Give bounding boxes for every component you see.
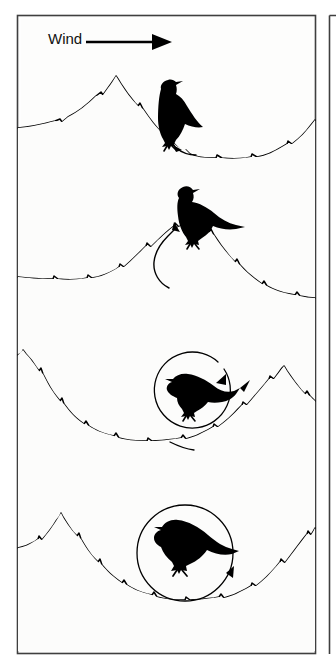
snow-dune-figure — [0, 0, 336, 662]
wind-label: Wind — [48, 30, 82, 48]
figure-root: Wind — [0, 0, 336, 662]
